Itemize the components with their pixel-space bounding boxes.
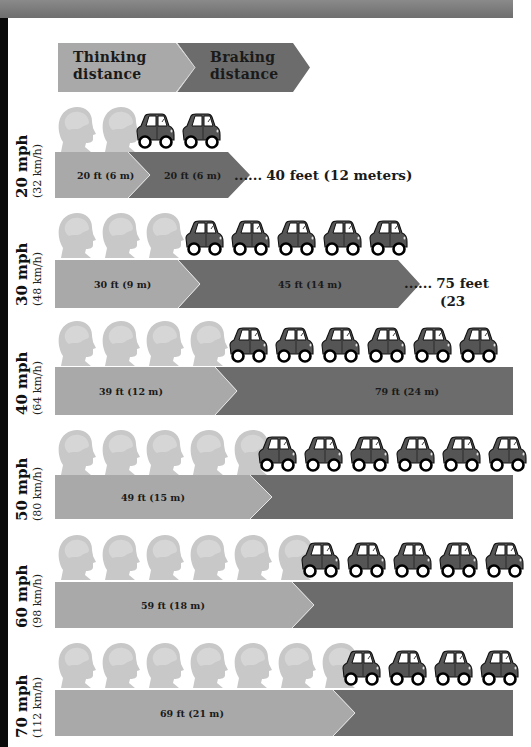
braking-distance: 79 ft (24 m) xyxy=(375,386,439,397)
speed-label: 20 mph (32 km/h) xyxy=(14,168,44,198)
speed-kmh: (98 km/h) xyxy=(31,598,44,628)
legend-braking: Braking distance xyxy=(177,43,310,92)
car-icon xyxy=(302,436,344,474)
head-icon xyxy=(55,320,99,366)
head-icon xyxy=(99,212,143,258)
thinking-distance: 20 ft (6 m) xyxy=(77,170,134,181)
speed-kmh: (112 km/h) xyxy=(31,708,44,738)
speed-kmh: (32 km/h) xyxy=(31,168,44,198)
braking-distance: 20 ft (6 m) xyxy=(164,170,221,181)
thinking-bar: 30 ft (9 m) xyxy=(55,260,201,308)
thinking-bar: 69 ft (21 m) xyxy=(55,690,356,736)
speed-label: 50 mph (80 km/h) xyxy=(14,491,44,521)
car-icon xyxy=(321,220,363,258)
car-icon xyxy=(345,542,387,580)
head-icon xyxy=(231,534,275,580)
head-icon xyxy=(55,106,99,152)
legend-thinking-label-2: distance xyxy=(73,66,142,82)
head-icons xyxy=(55,106,143,152)
head-icon xyxy=(55,534,99,580)
head-icons xyxy=(55,320,231,366)
car-icons xyxy=(134,113,226,151)
braking-bar xyxy=(250,475,513,519)
head-icon xyxy=(143,320,187,366)
speed-mph: 50 mph xyxy=(14,491,31,521)
speed-mph: 70 mph xyxy=(14,708,31,738)
head-icons xyxy=(55,429,275,475)
total-distance: ......75 feet (23 xyxy=(404,274,489,310)
braking-bar: 45 ft (14 m) xyxy=(178,260,420,308)
car-icon xyxy=(486,436,528,474)
car-icon xyxy=(183,220,225,258)
legend-braking-label-2: distance xyxy=(210,66,279,82)
car-icon xyxy=(134,113,176,151)
speed-label: 30 mph (48 km/h) xyxy=(14,276,44,306)
car-icon xyxy=(386,650,428,688)
head-icon xyxy=(231,642,275,688)
car-icons xyxy=(183,220,413,258)
car-icon xyxy=(299,542,341,580)
left-edge-strip xyxy=(0,18,8,747)
car-icon xyxy=(229,220,271,258)
braking-bar xyxy=(333,690,513,736)
car-icon xyxy=(180,113,222,151)
car-icon xyxy=(256,436,298,474)
thinking-bar: 20 ft (6 m) xyxy=(55,152,151,198)
head-icon xyxy=(143,534,187,580)
speed-mph: 60 mph xyxy=(14,598,31,628)
car-icons xyxy=(227,327,503,365)
thinking-distance: 49 ft (15 m) xyxy=(121,492,185,503)
head-icon xyxy=(275,642,319,688)
car-icon xyxy=(348,436,390,474)
car-icons xyxy=(299,542,529,580)
speed-mph: 30 mph xyxy=(14,276,31,306)
speed-kmh: (64 km/h) xyxy=(31,385,44,415)
braking-distance: 45 ft (14 m) xyxy=(278,279,342,290)
legend-braking-label-1: Braking xyxy=(210,49,275,65)
head-icon xyxy=(187,642,231,688)
head-icons xyxy=(55,212,187,258)
speed-mph: 20 mph xyxy=(14,168,31,198)
car-icon xyxy=(478,650,520,688)
car-icon xyxy=(227,327,269,365)
head-icon xyxy=(99,429,143,475)
speed-label: 40 mph (64 km/h) xyxy=(14,385,44,415)
legend: Thinking distance Braking distance xyxy=(58,43,310,92)
head-icon xyxy=(143,429,187,475)
head-icon xyxy=(99,320,143,366)
head-icons xyxy=(55,534,319,580)
car-icon xyxy=(437,542,479,580)
head-icon xyxy=(55,429,99,475)
head-icon xyxy=(187,429,231,475)
head-icon xyxy=(143,212,187,258)
car-icon xyxy=(391,542,433,580)
head-icon xyxy=(187,534,231,580)
car-icon xyxy=(275,220,317,258)
car-icon xyxy=(367,220,409,258)
head-icon xyxy=(99,642,143,688)
speed-label: 70 mph (112 km/h) xyxy=(14,708,44,738)
legend-thinking-label-1: Thinking xyxy=(73,49,146,65)
car-icons xyxy=(340,650,524,688)
car-icon xyxy=(273,327,315,365)
thinking-distance: 69 ft (21 m) xyxy=(160,708,224,719)
head-icon xyxy=(99,534,143,580)
head-icon xyxy=(143,642,187,688)
speed-kmh: (80 km/h) xyxy=(31,491,44,521)
car-icon xyxy=(319,327,361,365)
thinking-distance: 59 ft (18 m) xyxy=(141,600,205,611)
top-bar xyxy=(0,0,513,18)
car-icons xyxy=(256,436,531,474)
head-icon xyxy=(187,320,231,366)
car-icon xyxy=(394,436,436,474)
thinking-bar: 49 ft (15 m) xyxy=(55,475,273,519)
speed-kmh: (48 km/h) xyxy=(31,276,44,306)
car-icon xyxy=(483,542,525,580)
car-icon xyxy=(411,327,453,365)
head-icon xyxy=(55,212,99,258)
speed-label: 60 mph (98 km/h) xyxy=(14,598,44,628)
car-icon xyxy=(457,327,499,365)
car-icon xyxy=(440,436,482,474)
legend-thinking: Thinking distance xyxy=(58,43,195,92)
thinking-bar: 59 ft (18 m) xyxy=(55,582,315,628)
